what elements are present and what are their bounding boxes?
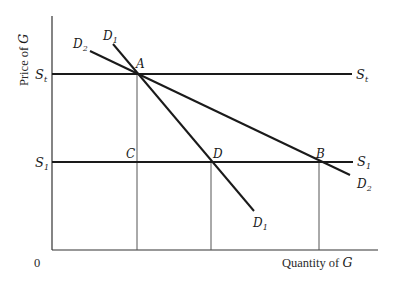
point-label-C: C	[126, 147, 135, 161]
label-D2-bottom: D2	[356, 177, 372, 193]
origin-label: 0	[34, 256, 40, 270]
label-D1-top: D1	[102, 29, 118, 45]
point-label-B: B	[315, 147, 325, 161]
demand-curve-D1	[113, 44, 254, 211]
label-D1-bottom: D1	[252, 216, 268, 232]
label-St-right: St	[356, 67, 369, 84]
label-S1-right: S1	[357, 154, 371, 171]
x-axis-title: Quantity of G	[282, 255, 352, 270]
point-label-D: D	[212, 147, 223, 161]
label-S1-left: S1	[35, 155, 49, 172]
label-St-left: St	[35, 67, 48, 84]
label-D2-top: D2	[72, 37, 88, 53]
y-axis-title: Price of G	[16, 34, 31, 86]
supply-demand-diagram: Price of G Quantity of G 0 St S1 St S1 D…	[0, 0, 394, 281]
point-label-A: A	[135, 57, 145, 71]
